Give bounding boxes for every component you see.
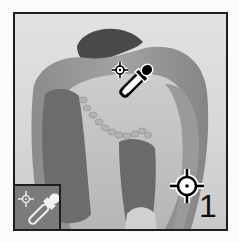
sampler-point-label: 1 [199, 190, 217, 222]
tool-icon-inset [15, 184, 61, 231]
image-canvas[interactable]: 1 [13, 12, 228, 231]
color-sampler-eyedropper-icon [111, 60, 155, 100]
color-sampler-tool-icon [15, 186, 59, 231]
